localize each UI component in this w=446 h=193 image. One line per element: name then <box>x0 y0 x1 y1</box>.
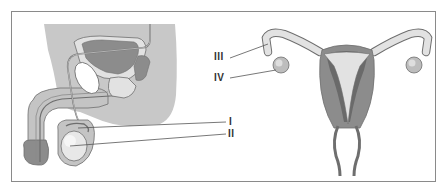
leader-line-III <box>230 44 268 58</box>
leader-line-IV <box>230 70 276 78</box>
vagina-right-wall <box>354 126 360 176</box>
anatomy-illustration <box>0 0 446 193</box>
vagina-left-wall <box>334 126 340 176</box>
label-III: III <box>214 52 224 62</box>
label-IV: IV <box>214 73 224 83</box>
female-reproductive-diagram <box>230 33 428 176</box>
male-reproductive-diagram <box>24 24 226 166</box>
label-II: II <box>228 129 235 139</box>
label-I: I <box>229 117 232 127</box>
